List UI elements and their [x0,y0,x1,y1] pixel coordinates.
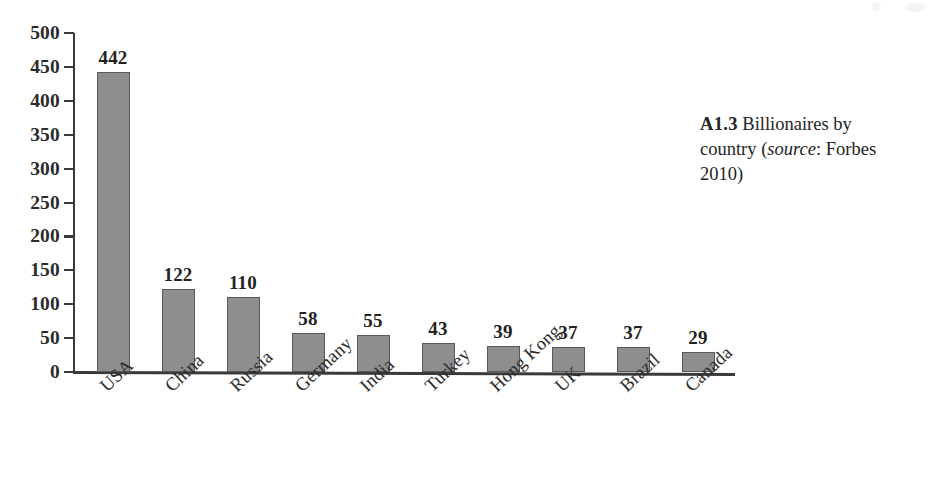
y-tick-label-100: 100 [16,293,60,315]
caption-colon: : [816,139,826,159]
y-tick-label-300: 300 [16,158,60,180]
figure-caption: A1.3 Billionaires by country (source: Fo… [700,112,912,187]
y-tick-label-350: 350 [16,124,60,146]
y-tick-100 [64,303,74,305]
y-tick-250 [64,202,74,204]
y-tick-label-500: 500 [16,22,60,44]
y-tick-150 [64,269,74,271]
y-tick-0 [64,371,74,373]
y-tick-50 [64,337,74,339]
y-tick-500 [64,32,74,34]
caption-line-1: Billionaires [742,114,828,134]
y-tick-200 [64,235,74,237]
y-tick-350 [64,134,74,136]
caption-source-word: source [767,139,816,159]
caption-number: A1.3 [700,114,738,134]
bar-value-usa: 442 [73,47,153,69]
y-tick-300 [64,168,74,170]
y-tick-label-400: 400 [16,90,60,112]
y-tick-label-250: 250 [16,192,60,214]
y-tick-label-450: 450 [16,56,60,78]
y-tick-label-50: 50 [16,327,60,349]
y-tick-label-0: 0 [16,361,60,383]
figure-billionaires-by-country: 050100150200250300350400450500 442122110… [0,0,933,487]
bar-usa [97,72,130,372]
y-tick-400 [64,100,74,102]
scan-artifact-2 [905,3,925,12]
scan-artifact-1 [872,2,881,11]
y-tick-label-150: 150 [16,259,60,281]
bar-value-russia: 110 [203,272,283,294]
bar-chart-plot-area: 050100150200250300350400450500 442122110… [0,0,760,487]
y-tick-label-200: 200 [16,225,60,247]
